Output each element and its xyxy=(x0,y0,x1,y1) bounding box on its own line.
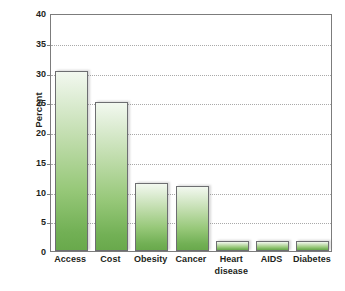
bar xyxy=(135,183,168,251)
x-axis-tick-label: Access xyxy=(50,254,90,266)
x-axis-tick-label: Heartdisease xyxy=(211,254,251,277)
plot-area xyxy=(50,14,332,252)
bar xyxy=(256,241,289,251)
y-axis-tick-labels: 0510152025303540 xyxy=(20,0,46,291)
bar-chart: Percent 0510152025303540 AccessCostObesi… xyxy=(0,0,345,291)
y-axis-tick-label: 10 xyxy=(20,188,46,198)
bar xyxy=(55,71,88,251)
bar xyxy=(216,241,249,251)
bar xyxy=(95,102,128,251)
y-axis-tick-label: 30 xyxy=(20,69,46,79)
y-axis-tick-label: 15 xyxy=(20,158,46,168)
x-axis-tick-label: Cancer xyxy=(171,254,211,266)
y-axis-tick-label: 20 xyxy=(20,128,46,138)
x-axis-tick-labels: AccessCostObesityCancerHeartdiseaseAIDSD… xyxy=(50,254,332,290)
x-axis-tick-label: Cost xyxy=(90,254,130,266)
bars-group xyxy=(51,15,331,251)
bar xyxy=(296,241,329,251)
x-axis-tick-label: Diabetes xyxy=(292,254,332,266)
y-axis-tick-label: 40 xyxy=(20,9,46,19)
bar xyxy=(176,186,209,251)
y-axis-tick-label: 0 xyxy=(20,247,46,257)
y-axis-tick-label: 35 xyxy=(20,39,46,49)
x-axis-tick-label: AIDS xyxy=(251,254,291,266)
y-axis-tick-label: 25 xyxy=(20,98,46,108)
y-axis-tick-label: 5 xyxy=(20,217,46,227)
x-axis-tick-label: Obesity xyxy=(131,254,171,266)
